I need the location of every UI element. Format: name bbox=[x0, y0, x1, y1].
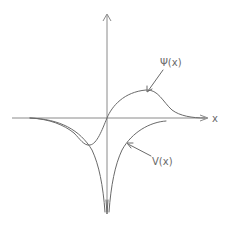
diagram-canvas: x Ψ(x) V(x) bbox=[0, 0, 231, 227]
potential-pointer bbox=[128, 144, 151, 156]
potential-label: V(x) bbox=[152, 156, 173, 167]
wavefunction-label: Ψ(x) bbox=[160, 57, 182, 68]
x-axis-label: x bbox=[212, 113, 218, 124]
potential-curve-left bbox=[30, 118, 105, 212]
wavefunction-pointer bbox=[148, 70, 163, 91]
